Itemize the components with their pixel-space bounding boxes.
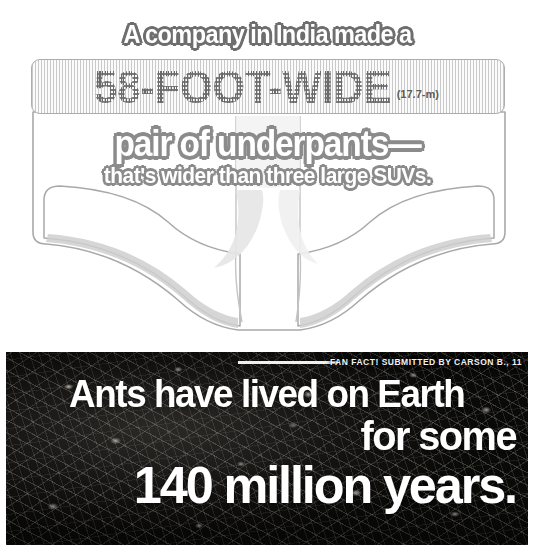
page-title-line-2: pair of underpants—	[19, 126, 517, 162]
page-title-line-1: A company in India made a	[16, 20, 519, 49]
measurement-metric: (17.7-m)	[397, 88, 439, 100]
ants-fact-panel: FAN FACT! SUBMITTED BY CARSON B., 11 Ant…	[6, 352, 528, 545]
waistband-banner: 58-FOOT-WIDE (17.7-m)	[31, 59, 505, 114]
page-subtitle: that's wider than three large SUVs.	[13, 164, 521, 188]
ants-headline-line-1: Ants have lived on Earth	[21, 374, 516, 414]
ants-headline-line-2: for some	[21, 414, 516, 458]
credit-rule-divider	[238, 361, 338, 364]
ants-headline-block: Ants have lived on Earth for some 140 mi…	[6, 374, 516, 512]
ants-headline-line-3: 140 million years.	[21, 458, 516, 512]
fan-fact-credit: FAN FACT! SUBMITTED BY CARSON B., 11	[330, 357, 522, 367]
measurement-imperial: 58-FOOT-WIDE	[94, 65, 391, 111]
waistband-content: 58-FOOT-WIDE (17.7-m)	[97, 67, 439, 108]
underpants-fact-panel: A company in India made a 58-FOOT-WIDE (…	[0, 0, 535, 345]
underpants-headline-block: pair of underpants— that's wider than th…	[0, 126, 535, 188]
